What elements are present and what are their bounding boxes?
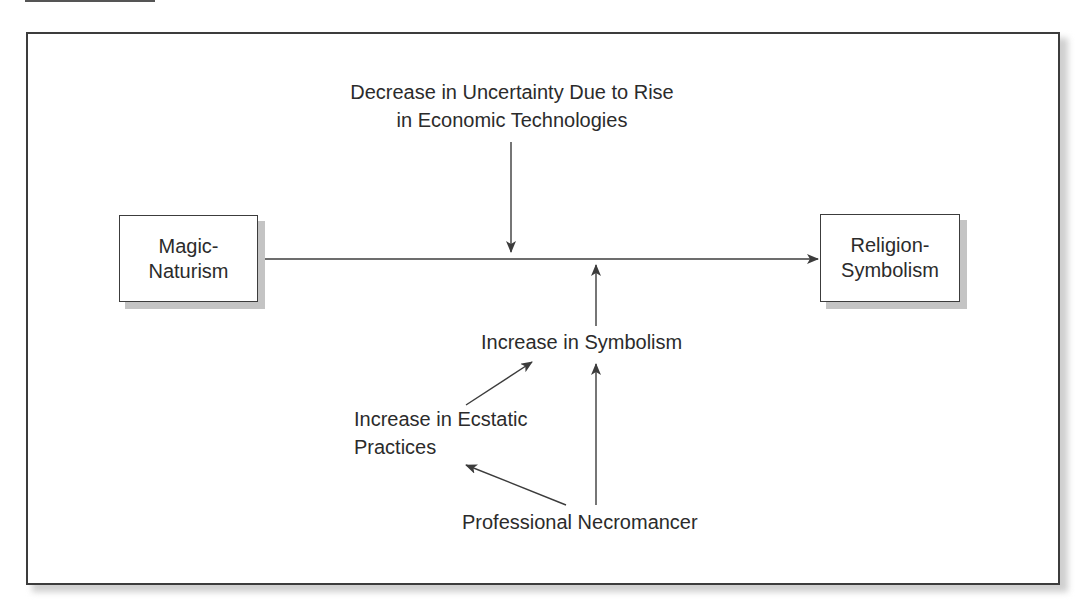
label-ecstatic-practices: Increase in Ecstatic Practices	[354, 405, 527, 461]
node-magic-naturism: Magic- Naturism	[119, 215, 258, 302]
node-religion-symbolism: Religion- Symbolism	[820, 214, 960, 302]
label-line2: Practices	[354, 433, 527, 461]
node-label-line2: Naturism	[148, 259, 228, 284]
ecstatic-to-symbolism-arrow	[466, 362, 532, 405]
node-label-line1: Religion-	[851, 233, 930, 258]
label-line1: Decrease in Uncertainty Due to Rise	[300, 78, 724, 106]
label-uncertainty: Decrease in Uncertainty Due to Rise in E…	[300, 78, 724, 134]
label-line1: Professional Necromancer	[462, 508, 698, 536]
node-label-line1: Magic-	[158, 234, 218, 259]
label-symbolism: Increase in Symbolism	[481, 328, 682, 356]
label-line1: Increase in Ecstatic	[354, 405, 527, 433]
label-line2: in Economic Technologies	[300, 106, 724, 134]
necromancer-to-ecstatic-arrow	[466, 465, 566, 505]
node-label-line2: Symbolism	[841, 258, 939, 283]
label-professional-necromancer: Professional Necromancer	[462, 508, 698, 536]
label-line1: Increase in Symbolism	[481, 328, 682, 356]
